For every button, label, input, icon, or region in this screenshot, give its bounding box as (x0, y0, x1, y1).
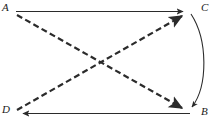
vertex-label-a: A (2, 2, 9, 13)
vertex-label-d: D (2, 104, 10, 115)
edge-c-to-b-curved (191, 14, 204, 107)
graph-svg (0, 0, 215, 128)
diagram-canvas: A C D B (0, 0, 215, 128)
edge-group (16, 12, 204, 114)
vertex-label-c: C (201, 2, 208, 13)
vertex-label-b: B (201, 106, 208, 117)
